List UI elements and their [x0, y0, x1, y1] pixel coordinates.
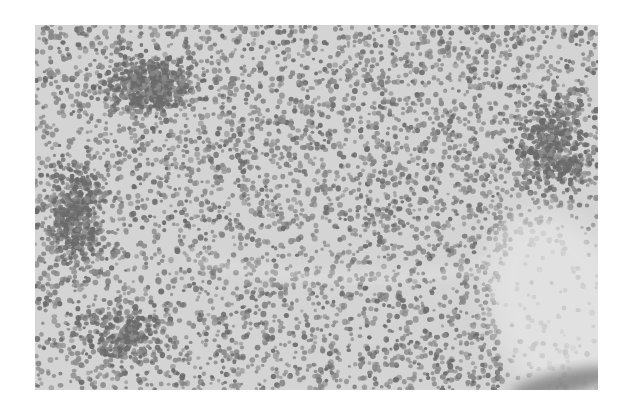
tissue-field	[35, 25, 598, 390]
histology-micrograph	[35, 25, 598, 390]
